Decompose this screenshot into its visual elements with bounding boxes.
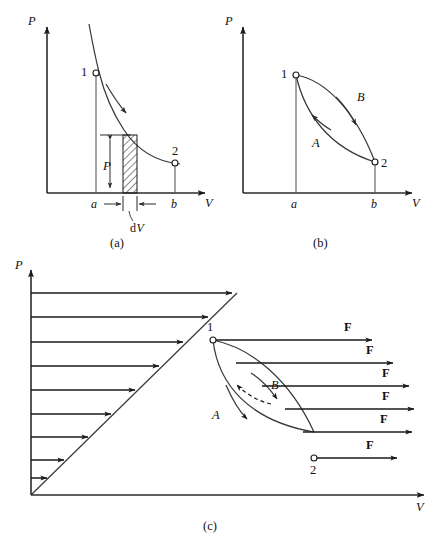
force-label: F — [380, 412, 388, 426]
panel-c: P V — [14, 258, 425, 533]
panel-a-direction-arrow — [106, 84, 126, 113]
panel-c-path-b-label: B — [271, 378, 279, 392]
figure-root: P V P dV a b — [0, 0, 442, 552]
panel-b-path-b-curve — [296, 75, 375, 162]
panel-a-dv-label: dV — [130, 221, 146, 235]
panel-b-point-2-label: 2 — [381, 156, 387, 170]
panel-b-point-2 — [372, 159, 378, 165]
panel-c-point-1-label: 1 — [207, 320, 213, 334]
panel-b-tick-label-b: b — [371, 197, 377, 211]
panel-b-path-a-curve — [296, 75, 375, 162]
panel-b: P V B A a b 1 2 (b) — [224, 14, 421, 250]
force-label: F — [344, 320, 352, 334]
panel-b-tick-label-a: a — [291, 197, 297, 211]
panel-b-y-axis-label: P — [224, 14, 233, 28]
panel-c-point-1 — [210, 337, 216, 343]
panel-c-y-axis-label: P — [14, 258, 23, 272]
panel-b-point-1-label: 1 — [281, 67, 287, 81]
panel-a-caption: (a) — [110, 236, 124, 250]
force-label: F — [382, 389, 390, 403]
panel-a-x-axis-label: V — [205, 196, 214, 210]
panel-a-point-1-label: 1 — [81, 65, 87, 79]
panel-c-path-a-dashed-arrow — [237, 385, 271, 404]
panel-a-point-2 — [172, 160, 178, 166]
pv-diagram-svg: P V P dV a b — [0, 0, 442, 552]
panel-c-point-2-label: 2 — [310, 463, 316, 477]
panel-a-point-1 — [93, 70, 99, 76]
panel-a-y-axis-label: P — [27, 14, 36, 28]
force-label: F — [366, 438, 374, 452]
panel-a-hatched-strip — [123, 135, 137, 193]
panel-b-path-b-label: B — [357, 90, 365, 104]
panel-a-pressure-label: P — [102, 158, 111, 173]
panel-a-tick-label-a: a — [91, 197, 97, 211]
panel-b-caption: (b) — [313, 236, 328, 250]
panel-c-caption: (c) — [203, 519, 217, 533]
panel-a: P V P dV a b — [27, 14, 214, 250]
panel-a-tick-label-b: b — [171, 197, 177, 211]
panel-c-point-2 — [311, 455, 317, 461]
panel-b-point-1 — [293, 72, 299, 78]
panel-c-path-a-arrow — [226, 385, 247, 419]
panel-b-path-a-label: A — [311, 136, 320, 150]
panel-c-x-axis-label: V — [416, 500, 425, 514]
panel-c-path-a-label: A — [211, 408, 220, 422]
panel-b-x-axis-label: V — [412, 196, 421, 210]
panel-a-dv-leader — [129, 211, 133, 221]
panel-c-force-arrows: F F F F F F — [213, 320, 414, 458]
panel-a-point-2-label: 2 — [172, 144, 178, 158]
force-label: F — [382, 366, 390, 380]
force-label: F — [366, 343, 374, 357]
panel-c-field-arrows — [31, 293, 232, 478]
